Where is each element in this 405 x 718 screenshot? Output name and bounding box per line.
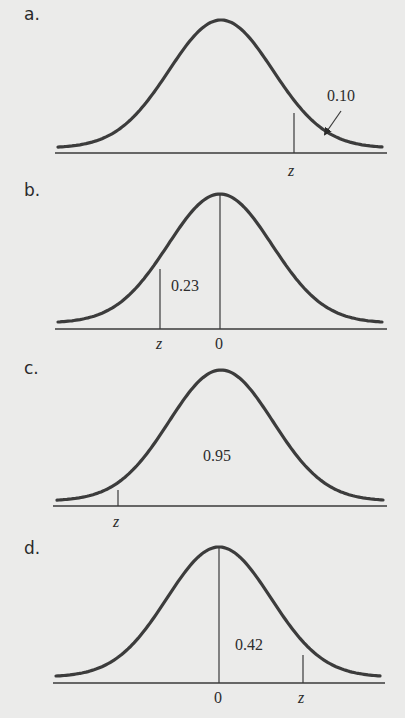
panel-d-area-label: 0.42: [235, 636, 263, 653]
panel-b-zero-label: 0: [215, 335, 223, 352]
panel-a-normal-curve: [58, 20, 382, 147]
panel-a: 0.10 z: [55, 20, 387, 179]
panel-c-area-label: 0.95: [203, 447, 231, 464]
panel-b: 0.23 z 0: [55, 194, 387, 352]
panel-a-arrow: [325, 111, 341, 134]
panel-b-area-label: 0.23: [171, 277, 199, 294]
normal-curves-figure: 0.10 z 0.23 z 0 0.95 z 0.42 z 0: [0, 0, 405, 718]
panel-d: 0.42 z 0: [53, 547, 385, 706]
panel-d-zero-label: 0: [214, 689, 222, 706]
panel-a-z-label: z: [287, 162, 295, 179]
panel-d-normal-curve: [56, 547, 380, 676]
panel-d-z-label: z: [297, 689, 305, 706]
panel-c-z-label: z: [112, 513, 120, 530]
panel-b-z-label: z: [155, 335, 163, 352]
panel-c-normal-curve: [57, 370, 383, 500]
panel-c: 0.95 z: [53, 370, 387, 530]
panel-a-area-label: 0.10: [327, 87, 355, 104]
